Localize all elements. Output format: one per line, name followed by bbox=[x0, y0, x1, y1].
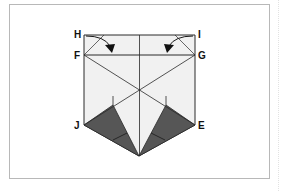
label-i: I bbox=[198, 29, 201, 40]
label-e: E bbox=[198, 120, 205, 131]
label-j: J bbox=[74, 120, 80, 131]
label-g: G bbox=[198, 50, 206, 61]
origami-diagram: H I F G J E bbox=[0, 0, 282, 191]
label-f: F bbox=[74, 50, 80, 61]
label-h: H bbox=[74, 29, 81, 40]
